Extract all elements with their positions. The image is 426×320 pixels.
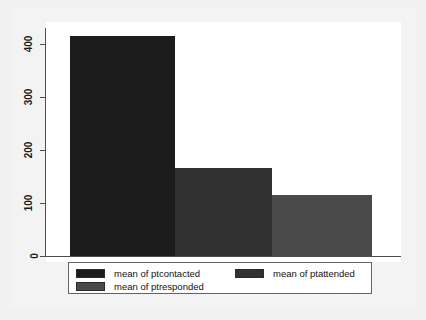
- legend-item-ptattended: mean of ptattended: [235, 267, 355, 280]
- legend-swatch-ptattended: [235, 269, 264, 278]
- legend: mean of ptcontacted mean of ptattended m…: [68, 262, 372, 294]
- chart-screenshot: 400 300 200 100 0 mean of ptcontacted me…: [0, 0, 426, 320]
- bar-ptcontacted: [70, 36, 175, 256]
- x-axis-line: [45, 256, 401, 257]
- legend-label-ptattended: mean of ptattended: [273, 269, 355, 279]
- legend-item-ptcontacted: mean of ptcontacted: [76, 267, 200, 280]
- legend-label-ptresponded: mean of ptresponded: [114, 282, 204, 292]
- bar-ptresponded: [272, 195, 372, 256]
- legend-label-ptcontacted: mean of ptcontacted: [114, 269, 200, 279]
- bar-ptattended: [175, 168, 272, 256]
- y-tick-mark-0: [40, 256, 45, 257]
- legend-swatch-ptcontacted: [76, 269, 105, 278]
- legend-item-ptresponded: mean of ptresponded: [76, 280, 204, 293]
- legend-swatch-ptresponded: [76, 282, 105, 291]
- bars-layer: [0, 0, 426, 256]
